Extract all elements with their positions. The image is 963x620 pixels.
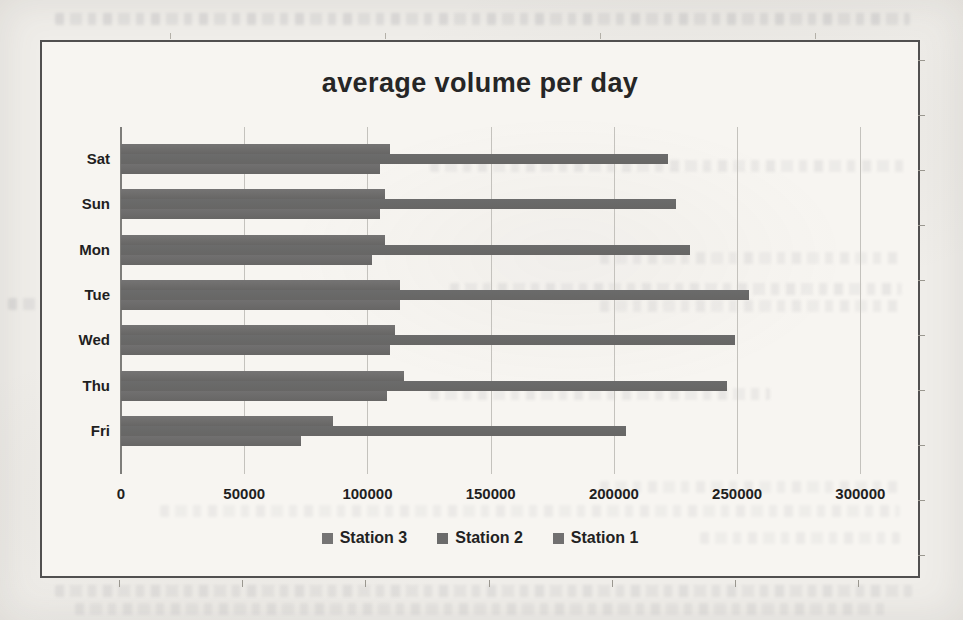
bar-station1-sat (121, 164, 380, 174)
scan-tick-right (918, 280, 925, 281)
y-axis-label-thu: Thu (48, 378, 110, 394)
scan-tick-right (918, 225, 925, 226)
y-axis-label-wed: Wed (48, 332, 110, 348)
ghost-text-line (55, 13, 910, 25)
bar-station3-sun (121, 189, 385, 199)
gridline (860, 127, 861, 474)
gridline (614, 127, 615, 474)
scan-tick-right (918, 500, 925, 501)
legend-swatch-icon (437, 533, 448, 544)
x-axis-label-50000: 50000 (223, 485, 265, 502)
x-axis-label-300000: 300000 (835, 485, 885, 502)
scan-tick-right (918, 115, 925, 116)
scan-tick-bottom (365, 580, 366, 587)
bar-station2-sat (121, 154, 668, 164)
scan-tick-bottom (735, 580, 736, 587)
legend-label: Station 2 (455, 529, 523, 547)
ghost-text-line (55, 585, 913, 597)
ghost-text-line (8, 298, 38, 310)
bar-station1-wed (121, 345, 390, 355)
legend-swatch-icon (322, 533, 333, 544)
legend-swatch-icon (553, 533, 564, 544)
scan-tick-top (385, 33, 386, 39)
bar-station2-fri (121, 426, 626, 436)
scan-tick-right (918, 170, 925, 171)
legend-item-station2: Station 2 (437, 529, 523, 547)
y-axis-label-sat: Sat (48, 151, 110, 167)
bar-station3-tue (121, 280, 400, 290)
scan-tick-right (918, 335, 925, 336)
scan-tick-right (918, 445, 925, 446)
y-axis-label-fri: Fri (48, 423, 110, 439)
bar-station3-sat (121, 144, 390, 154)
chart-frame: average volume per day SatSunMonTueWedTh… (40, 40, 920, 578)
scan-tick-bottom (489, 580, 490, 587)
gridline (737, 127, 738, 474)
bar-station3-fri (121, 416, 333, 426)
bar-station1-tue (121, 300, 400, 310)
bar-station3-mon (121, 235, 385, 245)
scanned-book-page: average volume per day SatSunMonTueWedTh… (0, 0, 963, 620)
bar-station1-fri (121, 436, 301, 446)
scan-tick-top (815, 33, 816, 39)
scan-tick-bottom (612, 580, 613, 587)
x-axis-label-200000: 200000 (589, 485, 639, 502)
bar-station3-wed (121, 325, 395, 335)
scan-tick-bottom (858, 580, 859, 587)
scan-tick-top (170, 33, 171, 39)
bar-station2-thu (121, 381, 727, 391)
chart-legend: Station 3Station 2Station 1 (42, 529, 918, 547)
legend-label: Station 3 (340, 529, 408, 547)
bar-station3-thu (121, 371, 404, 381)
bar-station1-mon (121, 255, 372, 265)
ghost-text-line (160, 505, 900, 517)
bar-station2-sun (121, 199, 676, 209)
ghost-text-line (75, 603, 890, 615)
scan-tick-bottom (119, 580, 120, 587)
x-axis-label-150000: 150000 (466, 485, 516, 502)
y-axis-label-tue: Tue (48, 287, 110, 303)
scan-tick-right (918, 60, 925, 61)
bar-station2-mon (121, 245, 690, 255)
legend-label: Station 1 (571, 529, 639, 547)
x-axis-label-100000: 100000 (342, 485, 392, 502)
scan-tick-right (918, 555, 925, 556)
bar-station1-thu (121, 391, 387, 401)
legend-item-station1: Station 1 (553, 529, 639, 547)
y-axis-label-sun: Sun (48, 196, 110, 212)
x-axis-label-250000: 250000 (712, 485, 762, 502)
scan-tick-top (600, 33, 601, 39)
x-axis-label-0: 0 (117, 485, 125, 502)
plot-area (121, 127, 922, 474)
scan-tick-bottom (242, 580, 243, 587)
gridline (491, 127, 492, 474)
legend-item-station3: Station 3 (322, 529, 408, 547)
y-axis-label-mon: Mon (48, 242, 110, 258)
bar-station2-tue (121, 290, 749, 300)
bar-station1-sun (121, 209, 380, 219)
scan-tick-right (918, 390, 925, 391)
chart-title: average volume per day (42, 68, 918, 99)
bar-station2-wed (121, 335, 735, 345)
